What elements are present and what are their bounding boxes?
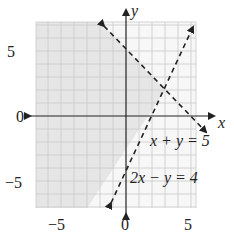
x-tick-neg5: −5 [48,216,65,233]
equation-label-1: x + y = 5 [149,132,210,150]
x-tick-5: 5 [184,216,192,233]
inequality-graph: 5 0 −5 −5 0 5 x y x + y = 5 2x − y = 4 [0,0,234,238]
x-tick-0: 0 [121,216,129,233]
y-axis-label: y [129,2,139,20]
y-tick-0: 0 [16,108,24,125]
y-tick-neg5: −5 [5,174,22,191]
x-axis-label: x [217,114,225,131]
y-tick-5: 5 [7,43,15,60]
equation-label-2: 2x − y = 4 [130,169,198,187]
